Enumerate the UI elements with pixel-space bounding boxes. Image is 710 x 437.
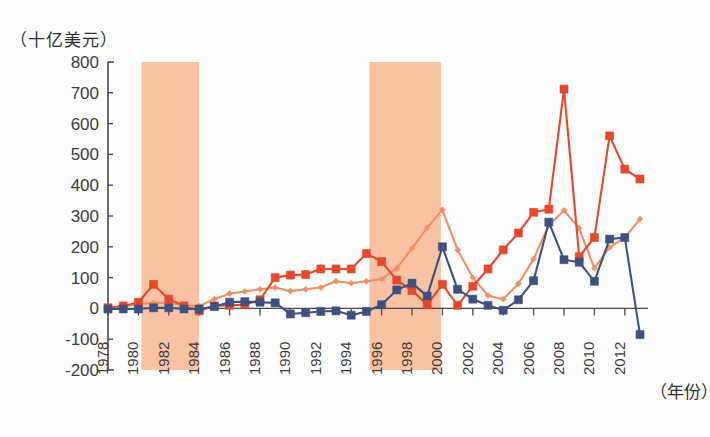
series-blue-marker xyxy=(393,286,401,294)
series-red-marker xyxy=(514,229,522,237)
series-blue-marker xyxy=(454,285,462,293)
series-light-orange-marker xyxy=(333,278,339,284)
x-tick-label: 1982 xyxy=(155,342,172,375)
series-red-marker xyxy=(286,271,294,279)
recession-band-2 xyxy=(369,62,440,370)
y-tick-label: 100 xyxy=(71,269,99,288)
y-tick-label: 0 xyxy=(90,299,99,318)
series-blue-marker xyxy=(286,310,294,318)
y-tick-label: 700 xyxy=(71,84,99,103)
series-blue-marker xyxy=(636,331,644,339)
series-red-marker xyxy=(621,165,629,173)
x-tick-label: 1980 xyxy=(124,342,141,375)
series-blue-marker xyxy=(165,304,173,312)
x-tick-label: 2012 xyxy=(611,342,628,375)
series-blue-marker xyxy=(332,307,340,315)
series-light-orange-marker xyxy=(272,284,278,290)
series-light-orange-marker xyxy=(287,288,293,294)
series-red-marker xyxy=(393,276,401,284)
series-red-marker xyxy=(438,280,446,288)
plot-area: 8007006005004003002001000-100-2001978198… xyxy=(0,0,710,437)
series-red-marker xyxy=(362,250,370,258)
series-blue-marker xyxy=(271,299,279,307)
series-blue-marker xyxy=(302,309,310,317)
x-tick-label: 2004 xyxy=(489,342,506,375)
series-blue-marker xyxy=(241,298,249,306)
series-blue-marker xyxy=(530,277,538,285)
x-axis-unit-label: （年份） xyxy=(650,378,710,403)
series-red-marker xyxy=(408,287,416,295)
series-blue-marker xyxy=(150,304,158,312)
x-tick-label: 1992 xyxy=(307,342,324,375)
y-tick-label: 500 xyxy=(71,145,99,164)
series-blue-marker xyxy=(134,305,142,313)
series-blue-marker xyxy=(119,305,127,313)
x-tick-label: 2008 xyxy=(550,342,567,375)
x-tick-label: 1994 xyxy=(337,342,354,375)
series-blue-marker xyxy=(606,235,614,243)
series-blue-marker xyxy=(514,296,522,304)
series-light-orange-marker xyxy=(257,286,263,292)
series-red-marker xyxy=(423,301,431,309)
series-red-marker xyxy=(271,274,279,282)
series-red-marker xyxy=(332,265,340,273)
series-red-marker xyxy=(347,265,355,273)
series-blue-marker xyxy=(560,256,568,264)
series-light-orange-marker xyxy=(363,278,369,284)
y-tick-label: 600 xyxy=(71,115,99,134)
x-tick-label: 2006 xyxy=(520,342,537,375)
series-blue-marker xyxy=(180,305,188,313)
x-tick-label: 2010 xyxy=(580,342,597,375)
series-light-orange-marker xyxy=(303,286,309,292)
series-blue-marker xyxy=(590,277,598,285)
x-tick-label: 1998 xyxy=(398,342,415,375)
series-red-marker xyxy=(165,295,173,303)
series-red-marker xyxy=(302,271,310,279)
series-blue-marker xyxy=(469,295,477,303)
series-blue-marker xyxy=(545,218,553,226)
x-tick-label: 1986 xyxy=(216,342,233,375)
series-red-marker xyxy=(636,175,644,183)
series-blue-marker xyxy=(484,301,492,309)
x-tick-label: 2000 xyxy=(428,342,445,375)
series-light-orange-marker xyxy=(227,291,233,297)
series-light-orange-marker xyxy=(211,296,217,302)
series-red-marker xyxy=(469,282,477,290)
series-red-marker xyxy=(560,85,568,93)
recession-band-1 xyxy=(141,62,199,370)
series-blue-marker xyxy=(423,292,431,300)
series-light-orange-marker xyxy=(318,284,324,290)
series-red-marker xyxy=(378,258,386,266)
x-tick-label: 1984 xyxy=(185,342,202,375)
series-blue-marker xyxy=(499,306,507,314)
series-red-marker xyxy=(590,234,598,242)
series-blue-marker xyxy=(104,305,112,313)
x-tick-label: 1978 xyxy=(94,342,111,375)
series-blue-marker xyxy=(575,258,583,266)
x-tick-label: 1988 xyxy=(246,342,263,375)
series-blue-marker xyxy=(347,311,355,319)
y-tick-label: 300 xyxy=(71,207,99,226)
y-tick-label: 400 xyxy=(71,176,99,195)
series-blue-marker xyxy=(226,298,234,306)
chart-svg: 8007006005004003002001000-100-2001978198… xyxy=(0,0,710,437)
y-tick-label: 800 xyxy=(71,53,99,72)
x-tick-label: 1996 xyxy=(368,342,385,375)
series-red-marker xyxy=(454,301,462,309)
series-blue-marker xyxy=(621,234,629,242)
series-red-marker xyxy=(606,132,614,140)
series-red-marker xyxy=(317,265,325,273)
chart-container: （十亿美元） 8007006005004003002001000-100-200… xyxy=(0,0,710,437)
series-red-marker xyxy=(484,265,492,273)
series-light-orange-marker xyxy=(348,280,354,286)
series-red-marker xyxy=(545,205,553,213)
series-blue-marker xyxy=(362,307,370,315)
x-tick-label: 1990 xyxy=(276,342,293,375)
series-red-marker xyxy=(530,208,538,216)
series-blue-marker xyxy=(378,301,386,309)
series-blue-marker xyxy=(408,279,416,287)
x-tick-label: 2002 xyxy=(459,342,476,375)
series-blue-marker xyxy=(256,298,264,306)
series-red-marker xyxy=(499,246,507,254)
series-blue-marker xyxy=(317,307,325,315)
